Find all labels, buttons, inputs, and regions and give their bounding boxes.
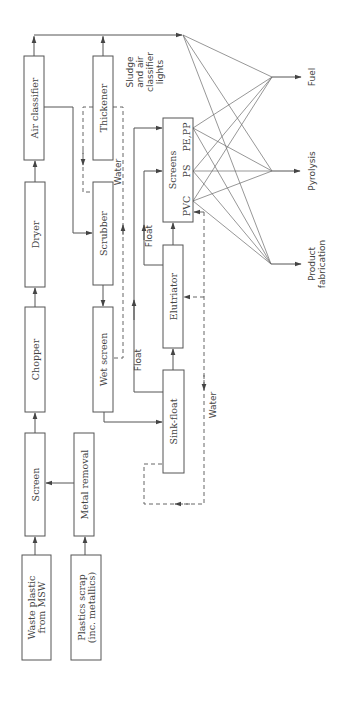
- chopper-box: Chopper: [25, 307, 45, 412]
- fuel-label: Fuel: [307, 68, 317, 86]
- flow-labels: FloatFloatWaterWaterSludgeand airclassif…: [113, 52, 327, 418]
- dryer-label: Dryer: [30, 220, 41, 248]
- elutriator-label: Elutriator: [168, 272, 179, 320]
- water-1-label: Water: [113, 158, 123, 185]
- scrubber-box: Scrubber: [93, 182, 113, 285]
- air-classifier-label: Air classifier: [29, 77, 40, 139]
- fanout-lines: [183, 35, 272, 264]
- fanout-line: [193, 77, 272, 128]
- plastics-scrap-label: (inc. metallics): [86, 572, 97, 643]
- fanout-line: [193, 77, 272, 201]
- float-1-label: Float: [133, 348, 143, 371]
- chopper-label: Chopper: [30, 338, 41, 380]
- plastics-scrap-box: Plastics scrap(inc. metallics): [71, 555, 101, 660]
- water-loop-thickener: [113, 107, 123, 358]
- sludge-label: and air: [135, 56, 145, 88]
- sink-float-label: Sink-float: [168, 398, 179, 444]
- arrow-elutriator-float: [144, 171, 163, 265]
- wet-screen-label: Wet screen: [98, 333, 109, 387]
- screen-box: Screen: [25, 433, 45, 536]
- metal-removal-box: Metal removal: [74, 433, 94, 536]
- float-2-label: Float: [144, 224, 154, 247]
- fanout-line: [193, 171, 271, 264]
- screen-fraction-pepp: PE,PP: [181, 122, 192, 152]
- scrubber-label: Scrubber: [98, 211, 109, 256]
- waste-plastic-box: Waste plasticfrom MSW: [22, 555, 51, 660]
- dryer-box: Dryer: [25, 182, 45, 287]
- air-classifier-box: Air classifier: [24, 56, 44, 160]
- screen-label: Screen: [30, 468, 41, 502]
- product-fabrication-label: Product: [307, 246, 317, 281]
- sludge-label: lights: [155, 59, 165, 84]
- process-flow-diagram: Air classifierDryerChopperScreenWaste pl…: [0, 0, 342, 718]
- water-2-label: Water: [208, 391, 218, 418]
- arrow-wetscreen-to-sinkfloat: [104, 412, 162, 422]
- thickener-label: Thickener: [98, 83, 109, 132]
- metal-removal-label: Metal removal: [79, 450, 90, 520]
- thickener-box: Thickener: [93, 56, 113, 160]
- product-fabrication-label: fabrication: [317, 240, 327, 288]
- screen-fraction-pvc: PVC: [181, 196, 192, 217]
- screens-label: Screens: [167, 151, 178, 190]
- arrow-air-to-scrubber: [44, 107, 92, 233]
- sludge-label: Sludge: [125, 56, 135, 87]
- sludge-label: classifier: [145, 52, 155, 92]
- wet-screen-box: Wet screen: [93, 307, 113, 412]
- process-boxes: Air classifierDryerChopperScreenWaste pl…: [22, 56, 193, 660]
- elutriator-box: Elutriator: [163, 245, 183, 348]
- screen-fraction-ps: PS: [181, 165, 192, 178]
- waste-plastic-label: from MSW: [36, 581, 47, 633]
- sink-float-box: Sink-float: [163, 370, 184, 473]
- fanout-line: [193, 128, 271, 264]
- pyrolysis-label: Pyrolysis: [307, 151, 317, 191]
- fanout-line: [193, 201, 271, 264]
